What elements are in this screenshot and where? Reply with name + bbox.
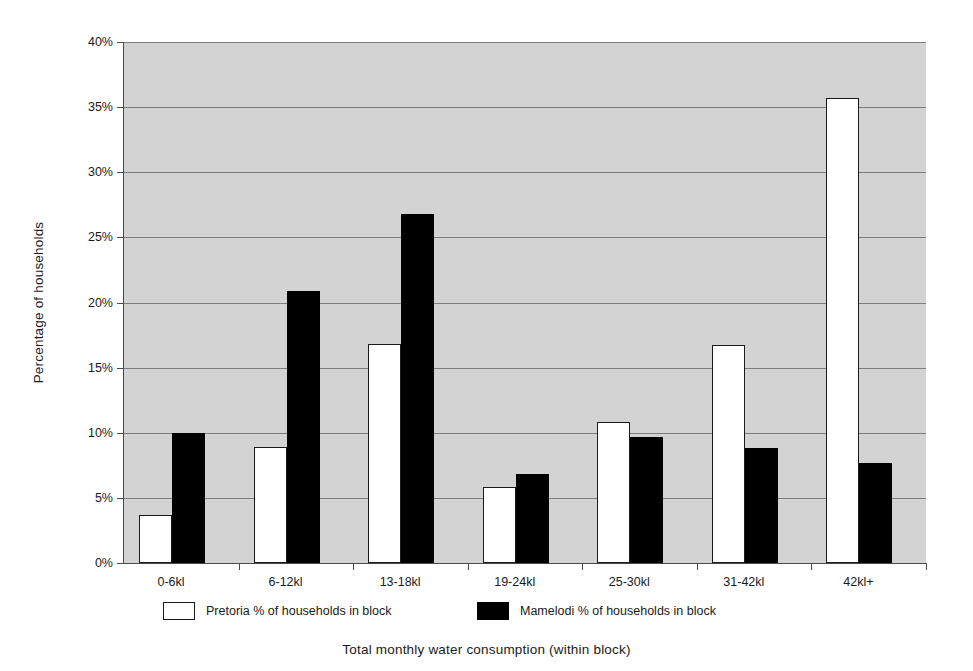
x-category-label: 31-42kl (723, 575, 764, 589)
x-tick-mark (468, 563, 469, 570)
x-tick-mark (353, 563, 354, 570)
x-tick-mark (582, 563, 583, 570)
bar-group (811, 42, 926, 563)
legend-item: Mamelodi % of households in block (477, 602, 716, 620)
x-tick-mark (697, 563, 698, 570)
legend-swatch-white (163, 602, 195, 620)
y-tick-label: 30% (88, 165, 113, 179)
bar-group (468, 42, 583, 563)
y-tick-label: 20% (88, 296, 113, 310)
bar-mamelodi (516, 474, 549, 563)
legend-swatch-black (477, 602, 509, 620)
bar-group (353, 42, 468, 563)
bar-chart-figure: Percentage of households 0%5%10%15%20%25… (0, 0, 973, 671)
y-tick-label: 35% (88, 100, 113, 114)
bar-pretoria (597, 422, 630, 563)
x-tick-mark (239, 563, 240, 570)
legend-item: Pretoria % of households in block (163, 602, 392, 620)
bar-mamelodi (745, 448, 778, 563)
x-axis-title: Total monthly water consumption (within … (0, 642, 973, 657)
bar-group (239, 42, 354, 563)
bar-pretoria (368, 344, 401, 563)
chart-legend: Pretoria % of households in blockMamelod… (0, 602, 973, 628)
x-tick-mark (926, 563, 927, 570)
plot-area (123, 42, 926, 564)
bar-mamelodi (287, 291, 320, 563)
bar-mamelodi (859, 463, 892, 563)
bar-group (697, 42, 812, 563)
bar-pretoria (712, 345, 745, 563)
y-tick-label: 0% (95, 556, 113, 570)
bar-pretoria (139, 515, 172, 563)
bar-mamelodi (630, 437, 663, 563)
bar-mamelodi (172, 433, 205, 563)
x-category-label: 25-30kl (609, 575, 650, 589)
y-axis-title: Percentage of households (31, 173, 46, 433)
bar-group (124, 42, 239, 563)
y-tick-label: 5% (95, 491, 113, 505)
bar-pretoria (483, 487, 516, 563)
x-category-label: 0-6kl (157, 575, 184, 589)
legend-label: Mamelodi % of households in block (520, 604, 716, 618)
y-tick-label: 15% (88, 361, 113, 375)
x-category-label: 13-18kl (380, 575, 421, 589)
x-tick-mark (811, 563, 812, 570)
y-tick-label: 10% (88, 426, 113, 440)
bar-pretoria (826, 98, 859, 563)
y-tick-label: 25% (88, 230, 113, 244)
x-category-label: 19-24kl (494, 575, 535, 589)
x-category-label: 42kl+ (843, 575, 873, 589)
bar-group (582, 42, 697, 563)
x-category-label: 6-12kl (269, 575, 303, 589)
legend-label: Pretoria % of households in block (206, 604, 392, 618)
bar-mamelodi (401, 214, 434, 563)
bar-pretoria (254, 447, 287, 563)
y-tick-label: 40% (88, 35, 113, 49)
